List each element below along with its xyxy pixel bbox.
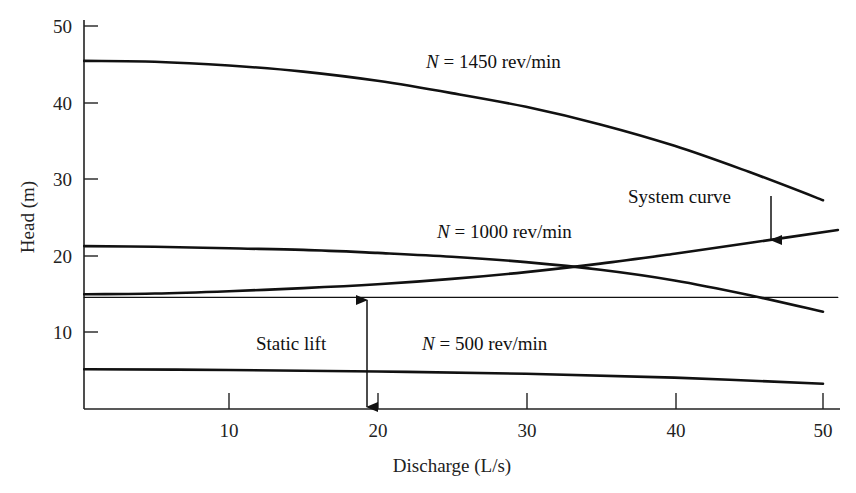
x-tick-label: 30: [518, 420, 537, 441]
y-tick-label: 50: [53, 16, 72, 37]
x-axis-title: Discharge (L/s): [393, 455, 511, 477]
label-system-curve: System curve: [628, 186, 731, 207]
label-n500: N = 500 rev/min: [421, 333, 548, 354]
x-tick-label: 40: [667, 420, 686, 441]
label-n1000: N = 1000 rev/min: [436, 221, 572, 242]
label-static-lift: Static lift: [256, 333, 327, 354]
y-tick-label: 10: [53, 322, 72, 343]
x-ticks: [229, 393, 823, 409]
y-tick-label: 20: [53, 246, 72, 267]
pump-curve-1450: [84, 61, 823, 200]
x-tick-label: 20: [369, 420, 388, 441]
y-axis-title: Head (m): [17, 181, 39, 253]
x-tick-labels: 10 20 30 40 50: [220, 420, 833, 441]
x-tick-label: 10: [220, 420, 239, 441]
label-n1450: N = 1450 rev/min: [425, 51, 561, 72]
y-ticks: [84, 26, 98, 332]
x-tick-label: 50: [814, 420, 833, 441]
pump-curve-500: [84, 369, 823, 384]
y-tick-labels: 10 20 30 40 50: [53, 16, 72, 343]
y-tick-label: 40: [53, 93, 72, 114]
y-tick-label: 30: [53, 169, 72, 190]
pump-head-discharge-chart: 10 20 30 40 50 10 20 30 40 50 Discharge …: [0, 0, 856, 493]
